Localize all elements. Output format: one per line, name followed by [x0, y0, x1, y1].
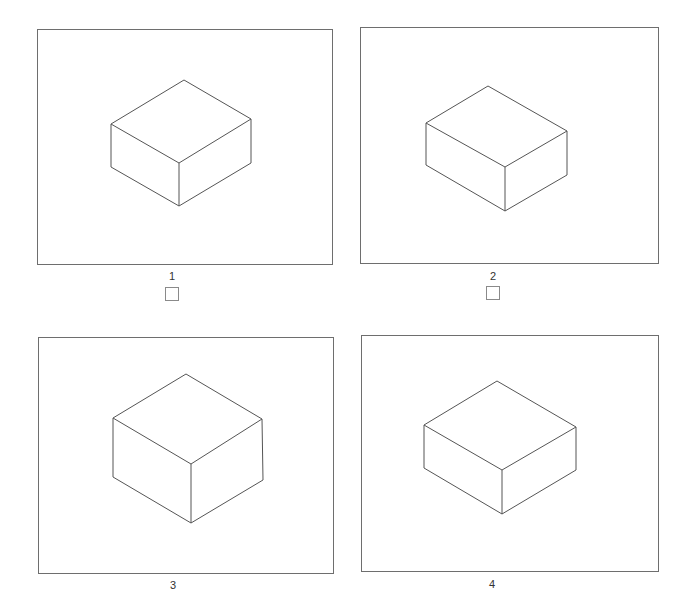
box-2 [426, 86, 567, 211]
box-4 [424, 381, 576, 514]
box-3 [113, 374, 263, 523]
option-2-checkbox[interactable] [486, 286, 500, 300]
option-3-label: 3 [163, 579, 183, 591]
isometric-boxes [0, 0, 689, 592]
option-4-label: 4 [482, 578, 502, 590]
option-1-label: 1 [162, 270, 182, 282]
option-1-checkbox[interactable] [165, 287, 179, 301]
box-1 [111, 80, 251, 206]
option-2-label: 2 [483, 270, 503, 282]
